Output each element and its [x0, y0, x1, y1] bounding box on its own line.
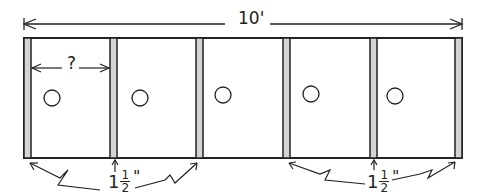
- stud-6: [455, 38, 462, 158]
- inch-mark: ": [133, 167, 140, 186]
- thickness-fraction: 1 2: [379, 169, 389, 194]
- stud-2: [110, 38, 117, 158]
- stud-thickness-label-right: 1 1 2 ": [367, 169, 399, 194]
- stud-1: [24, 38, 31, 158]
- thickness-denominator: 2: [121, 182, 129, 194]
- stud-3: [196, 38, 203, 158]
- stud-thickness-label-left: 1 1 2 ": [108, 169, 140, 194]
- wall-framing-diagram: [0, 0, 485, 196]
- inch-mark: ": [392, 167, 399, 186]
- thickness-whole: 1: [367, 171, 378, 192]
- stud-spacing-label: ?: [64, 55, 79, 72]
- stud-5: [370, 38, 377, 158]
- thickness-fraction: 1 2: [120, 169, 130, 194]
- thickness-whole: 1: [108, 171, 119, 192]
- overall-dimension-label: 10': [232, 10, 270, 27]
- wall-frame: [24, 38, 462, 158]
- stud-4: [283, 38, 290, 158]
- thickness-denominator: 2: [380, 182, 388, 194]
